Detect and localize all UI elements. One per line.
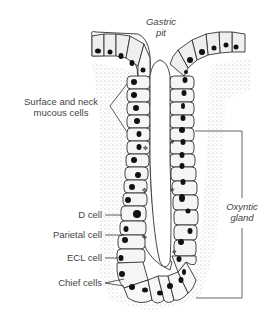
gastric-gland-diagram xyxy=(0,0,269,316)
surface-mucous-label-line2: mucous cells xyxy=(20,107,102,118)
d-cell-label: D cell xyxy=(78,209,102,220)
oxyntic-gland-label-line2: gland xyxy=(220,212,264,223)
parietal-cell-label: Parietal cell xyxy=(53,229,102,240)
gastric-pit-label-line2: pit xyxy=(141,27,181,38)
oxyntic-gland-label: Oxyntic gland xyxy=(220,201,264,223)
chief-cells-label: Chief cells xyxy=(58,277,102,288)
gastric-pit-label-line1: Gastric xyxy=(141,16,181,27)
gastric-pit-label: Gastric pit xyxy=(141,16,181,38)
oxyntic-gland-label-line1: Oxyntic xyxy=(220,201,264,212)
surface-mucous-label-line1: Surface and neck xyxy=(20,96,102,107)
ecl-cell-label: ECL cell xyxy=(67,252,102,263)
surface-mucous-label: Surface and neck mucous cells xyxy=(20,96,102,118)
